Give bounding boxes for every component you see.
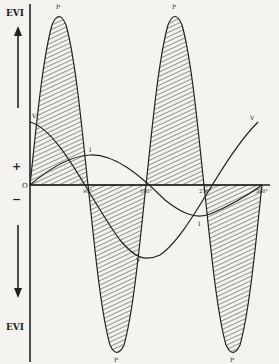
voltage-label-min: V: [135, 256, 141, 263]
power-lobe-negative-1: [88, 185, 146, 353]
voltage-label-start: V: [31, 112, 37, 119]
tick-180: 180°: [140, 188, 153, 194]
power-label-bottom-2: P: [230, 356, 234, 363]
current-label-min: I: [198, 220, 201, 227]
current-label-max: I: [89, 146, 92, 153]
tick-90: 90°: [83, 188, 92, 194]
negative-arrow-icon: [14, 225, 22, 298]
power-lobe-negative-2: [204, 185, 262, 353]
top-axis-label: EVI: [6, 8, 24, 18]
voltage-label-end: V: [249, 114, 255, 121]
tick-360: 360°: [256, 188, 269, 194]
negative-sign: −: [12, 193, 21, 206]
power-lobe-positive-2: [146, 17, 204, 186]
power-label-top-1: P: [56, 3, 60, 10]
power-label-bottom-1: P: [114, 356, 118, 363]
positive-sign: +: [12, 160, 21, 173]
positive-arrow-icon: [14, 26, 22, 108]
origin-label: O: [22, 182, 28, 190]
power-lobe-positive-1: [30, 17, 88, 186]
bottom-axis-label: EVI: [6, 322, 24, 332]
power-waveform-diagram: EVI EVI + − O 90° 180° 270° 360° P P P P…: [0, 0, 279, 364]
power-label-top-2: P: [172, 3, 176, 10]
tick-270: 270°: [199, 188, 212, 194]
